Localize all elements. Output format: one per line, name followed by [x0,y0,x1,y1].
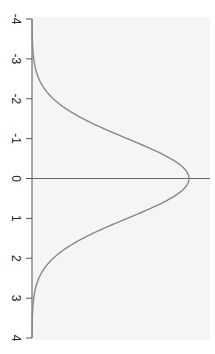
tick-label: 4 [9,335,23,342]
tick-label: -1 [9,133,23,144]
tick-label: 1 [9,215,23,222]
tick-label: 3 [9,295,23,302]
tick-label: -4 [9,14,23,25]
tick-label: -2 [9,93,23,104]
density-chart: -4-3-2-101234 [0,0,215,354]
tick-label: -3 [9,54,23,65]
axis-ticks: -4-3-2-101234 [9,14,32,342]
tick-label: 2 [9,255,23,262]
tick-label: 0 [9,175,23,182]
